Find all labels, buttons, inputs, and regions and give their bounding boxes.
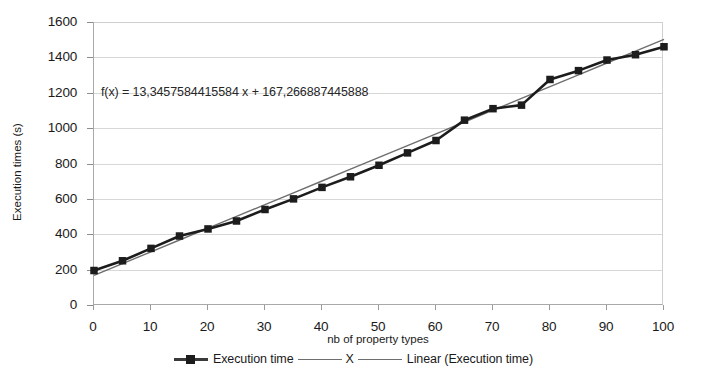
legend-item-execution-time: Execution time xyxy=(174,352,294,366)
trendline-path xyxy=(94,39,664,275)
x-tick-label-20: 20 xyxy=(184,320,230,334)
x-tick-label-50: 50 xyxy=(355,320,401,334)
data-point-marker xyxy=(404,149,412,157)
trendline-equation-label: f(x) = 13,3457584415584 x + 167,26688744… xyxy=(101,85,368,99)
y-tick-label-200: 200 xyxy=(17,263,77,277)
y-axis-title: Execution times (s) xyxy=(11,92,23,252)
data-point-marker xyxy=(375,162,383,170)
data-point-marker xyxy=(147,245,155,253)
data-point-marker xyxy=(518,101,526,109)
data-point-marker xyxy=(603,56,611,64)
x-tick-mark-10 xyxy=(150,305,151,310)
y-tick-label-1400: 1400 xyxy=(17,50,77,64)
x-tick-mark-20 xyxy=(207,305,208,310)
data-point-marker xyxy=(489,105,497,113)
x-tick-label-0: 0 xyxy=(70,320,116,334)
data-point-marker xyxy=(290,195,298,203)
x-tick-label-10: 10 xyxy=(127,320,173,334)
legend-label-execution-time: Execution time xyxy=(213,352,294,366)
x-axis: 0102030405060708090100 xyxy=(0,305,707,355)
x-tick-label-80: 80 xyxy=(526,320,572,334)
data-point-marker xyxy=(660,43,668,51)
y-tick-label-1200: 1200 xyxy=(17,86,77,100)
x-tick-label-40: 40 xyxy=(298,320,344,334)
data-point-marker xyxy=(347,173,355,181)
chart-legend: Execution time X Linear (Execution time) xyxy=(0,352,707,366)
legend-line-icon-2 xyxy=(358,352,402,366)
x-tick-mark-60 xyxy=(435,305,436,310)
data-point-marker xyxy=(233,217,241,225)
y-tick-label-1000: 1000 xyxy=(17,121,77,135)
x-tick-mark-0 xyxy=(93,305,94,310)
x-tick-label-90: 90 xyxy=(583,320,629,334)
x-tick-label-60: 60 xyxy=(412,320,458,334)
data-point-marker xyxy=(461,116,469,124)
x-tick-mark-40 xyxy=(321,305,322,310)
x-tick-label-30: 30 xyxy=(241,320,287,334)
data-point-marker xyxy=(261,206,269,214)
x-tick-label-70: 70 xyxy=(469,320,515,334)
data-point-marker xyxy=(546,76,554,84)
legend-item-x: X xyxy=(294,352,354,366)
y-tick-label-800: 800 xyxy=(17,157,77,171)
data-point-marker xyxy=(176,232,184,240)
series-layer xyxy=(94,22,664,305)
x-tick-mark-90 xyxy=(606,305,607,310)
x-tick-mark-80 xyxy=(549,305,550,310)
y-tick-label-1600: 1600 xyxy=(17,15,77,29)
legend-label-linear-execution-time: Linear (Execution time) xyxy=(407,352,533,366)
legend-label-x: X xyxy=(346,352,354,366)
plot-area xyxy=(93,22,663,305)
y-tick-label-400: 400 xyxy=(17,227,77,241)
x-tick-label-100: 100 xyxy=(640,320,686,334)
data-point-marker xyxy=(204,225,212,233)
data-point-marker xyxy=(575,67,583,75)
trendline-series xyxy=(94,39,664,275)
data-point-marker xyxy=(119,257,127,265)
legend-line-icon xyxy=(298,352,342,366)
legend-item-linear-execution-time: Linear (Execution time) xyxy=(354,352,533,366)
y-tick-label-600: 600 xyxy=(17,192,77,206)
x-tick-mark-100 xyxy=(663,305,664,310)
x-tick-mark-50 xyxy=(378,305,379,310)
legend-line-marker-icon xyxy=(174,352,208,366)
data-point-marker xyxy=(432,137,440,145)
data-point-marker xyxy=(90,267,98,275)
x-tick-mark-70 xyxy=(492,305,493,310)
chart-figure: 02004006008001000120014001600 Execution … xyxy=(0,0,707,388)
x-tick-mark-30 xyxy=(264,305,265,310)
data-point-marker xyxy=(632,51,640,59)
x-axis-title: nb of property types xyxy=(93,333,663,345)
data-point-marker xyxy=(318,184,326,192)
execution-time-markers xyxy=(90,43,668,274)
